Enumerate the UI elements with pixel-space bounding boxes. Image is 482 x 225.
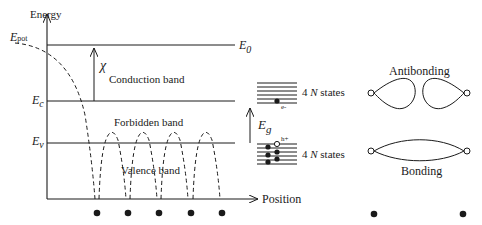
antibonding-label: Antibonding <box>389 64 450 79</box>
atom-dots <box>94 210 226 217</box>
forbidden-band-label: Forbidden band <box>114 116 183 128</box>
antibonding-orbitals <box>368 78 470 108</box>
conduction-band-label: Conduction band <box>109 73 184 85</box>
hole-label: h+ <box>281 135 288 143</box>
atom-dot-right <box>460 211 467 218</box>
electron-affinity-label: χ <box>100 58 106 74</box>
lower-states-label: 4 N states <box>302 148 345 160</box>
energy-axis-label: Energy <box>30 8 62 20</box>
e-0-label: E0 <box>239 38 251 53</box>
electron-dot <box>274 98 279 103</box>
electron-label: e- <box>281 103 286 111</box>
valence-band-label: Valence band <box>121 164 180 176</box>
e-c-label: Ec <box>32 93 44 108</box>
upper-states-label: 4 N states <box>302 86 345 98</box>
e-v-label: Ev <box>32 134 44 149</box>
e-pot-label: Epot <box>10 30 28 45</box>
band-gap-label: Eg <box>258 117 271 133</box>
atom-dot-left <box>371 211 378 218</box>
position-axis-label: Position <box>262 192 301 207</box>
bonding-label: Bonding <box>401 164 442 179</box>
valence-electrons <box>265 144 279 164</box>
bonding-orbital <box>368 140 470 161</box>
band-diagram-canvas <box>0 0 482 225</box>
hole-circle <box>274 141 279 146</box>
